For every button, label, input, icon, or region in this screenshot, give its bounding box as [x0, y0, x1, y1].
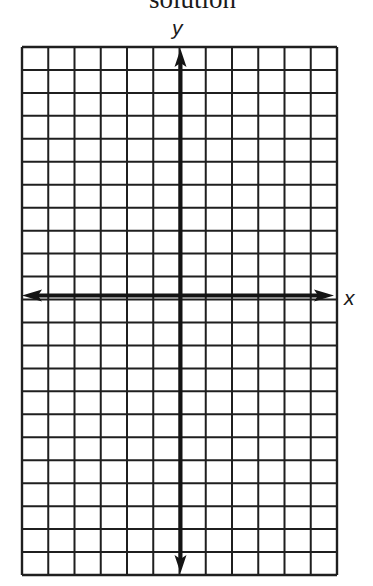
- coordinate-grid: [0, 0, 373, 586]
- axes: [22, 49, 334, 573]
